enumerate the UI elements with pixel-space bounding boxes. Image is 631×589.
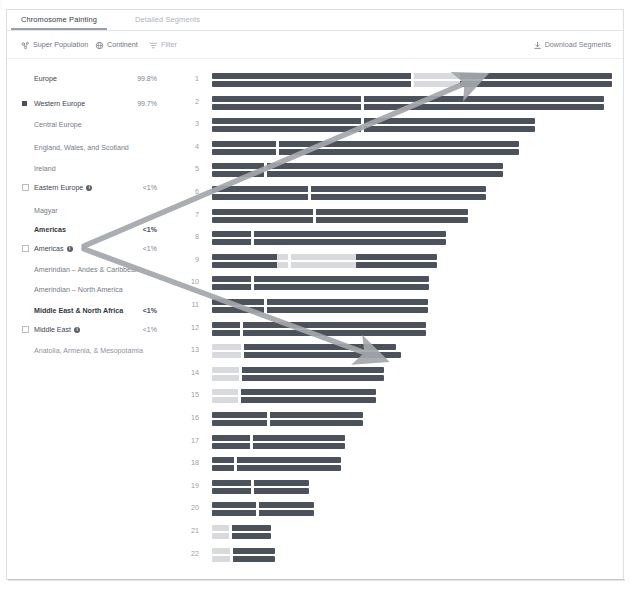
ancestry-segment[interactable] (212, 126, 535, 132)
tab-chromosome-painting[interactable]: Chromosome Painting (11, 10, 107, 30)
legend-bullet[interactable] (22, 326, 29, 333)
legend-row[interactable]: Magyar (7, 204, 179, 217)
legend-row[interactable]: Western Europe99.7% (7, 97, 179, 110)
chromosome-haplotype-bar[interactable] (212, 149, 519, 155)
ancestry-segment[interactable] (212, 412, 363, 418)
ancestry-segment[interactable] (212, 194, 486, 200)
ancestry-segment[interactable] (212, 389, 240, 395)
chromosome-haplotype-bar[interactable] (212, 330, 426, 336)
legend-row[interactable]: Anatolia, Armenia, & Mesopotamia (7, 344, 179, 357)
ancestry-segment[interactable] (212, 104, 604, 110)
ancestry-segment[interactable] (212, 344, 242, 350)
legend-row[interactable]: Amerindian – Andes & Caribbean (7, 263, 179, 276)
chromosome-haplotype-bar[interactable] (212, 186, 486, 192)
ancestry-segment[interactable] (412, 73, 460, 79)
tab-detailed-segments[interactable]: Detailed Segments (125, 10, 210, 30)
continent-button[interactable]: Continent (95, 38, 138, 52)
ancestry-segment[interactable] (212, 307, 428, 313)
ancestry-segment[interactable] (212, 556, 231, 562)
chromosome-haplotype-bar[interactable] (212, 239, 446, 245)
info-icon[interactable]: i (74, 327, 80, 333)
ancestry-segment[interactable] (240, 367, 384, 373)
ancestry-segment[interactable] (460, 73, 612, 79)
chromosome-haplotype-bar[interactable] (212, 73, 612, 79)
chromosome-fragment[interactable] (212, 510, 223, 516)
chromosome-haplotype-bar[interactable] (212, 126, 535, 132)
chromosome-haplotype-bar[interactable] (212, 118, 535, 124)
chromosome-haplotype-bar[interactable] (212, 533, 271, 539)
legend-row[interactable]: Ireland (7, 162, 179, 175)
chromosome-haplotype-bar[interactable] (212, 525, 271, 531)
ancestry-segment[interactable] (212, 163, 503, 169)
ancestry-segment[interactable] (212, 330, 426, 336)
ancestry-segment[interactable] (212, 525, 230, 531)
ancestry-segment[interactable] (212, 231, 446, 237)
chromosome-haplotype-bar[interactable] (212, 231, 446, 237)
ancestry-segment[interactable] (227, 510, 249, 516)
chromosome-haplotype-bar[interactable] (212, 457, 341, 463)
legend-row[interactable]: Middle East & North Africa<1% (7, 304, 179, 317)
chromosome-haplotype-bar[interactable] (212, 307, 428, 313)
ancestry-segment[interactable] (240, 397, 376, 403)
ancestry-segment[interactable] (212, 217, 468, 223)
chromosome-haplotype-bar[interactable] (212, 254, 437, 260)
ancestry-segment[interactable] (212, 239, 446, 245)
ancestry-segment[interactable] (212, 352, 242, 358)
chromosome-haplotype-bar[interactable] (212, 367, 384, 373)
chromosome-haplotype-bar[interactable] (212, 465, 341, 471)
legend-row[interactable]: Central Europe (7, 118, 179, 131)
ancestry-segment[interactable] (212, 488, 309, 494)
ancestry-segment[interactable] (212, 254, 277, 260)
chromosome-haplotype-bar[interactable] (212, 299, 428, 305)
chromosome-haplotype-bar[interactable] (212, 375, 384, 381)
ancestry-segment[interactable] (212, 375, 240, 381)
chromosome-haplotype-bar[interactable] (212, 435, 345, 441)
ancestry-segment[interactable] (240, 375, 384, 381)
ancestry-segment[interactable] (212, 171, 503, 177)
ancestry-segment[interactable] (395, 352, 401, 358)
ancestry-segment[interactable] (212, 502, 314, 508)
chromosome-haplotype-bar[interactable] (212, 284, 429, 290)
ancestry-segment[interactable] (212, 443, 345, 449)
ancestry-segment[interactable] (356, 254, 437, 260)
chromosome-haplotype-bar[interactable] (212, 209, 468, 215)
ancestry-segment[interactable] (212, 435, 345, 441)
legend-row[interactable]: Americasi<1% (7, 242, 179, 255)
ancestry-segment[interactable] (212, 81, 412, 87)
ancestry-segment[interactable] (212, 262, 277, 268)
ancestry-segment[interactable] (242, 344, 396, 350)
ancestry-segment[interactable] (240, 389, 376, 395)
chromosome-haplotype-bar[interactable] (212, 194, 486, 200)
chromosome-fragment[interactable] (387, 352, 392, 358)
ancestry-segment[interactable] (212, 322, 426, 328)
chromosome-haplotype-bar[interactable] (212, 104, 604, 110)
ancestry-segment[interactable] (230, 533, 271, 539)
ancestry-segment[interactable] (212, 141, 519, 147)
ancestry-segment[interactable] (242, 352, 396, 358)
ancestry-segment[interactable] (212, 548, 231, 554)
chromosome-fragment[interactable] (227, 510, 249, 516)
chromosome-haplotype-bar[interactable] (212, 502, 314, 508)
chromosome-haplotype-bar[interactable] (212, 262, 437, 268)
chromosome-haplotype-bar[interactable] (212, 488, 309, 494)
ancestry-segment[interactable] (212, 276, 429, 282)
chromosome-haplotype-bar[interactable] (212, 556, 275, 562)
chromosome-haplotype-bar[interactable] (212, 322, 426, 328)
ancestry-segment[interactable] (212, 73, 412, 79)
ancestry-segment[interactable] (212, 299, 428, 305)
chromosome-haplotype-bar[interactable] (212, 548, 275, 554)
ancestry-segment[interactable] (212, 457, 341, 463)
chromosome-haplotype-bar[interactable] (212, 276, 429, 282)
legend-bullet-selected[interactable] (22, 101, 27, 106)
chromosome-haplotype-bar[interactable] (212, 217, 468, 223)
ancestry-segment[interactable] (212, 367, 240, 373)
legend-bullet[interactable] (22, 245, 29, 252)
legend-row[interactable]: Europe99.8% (7, 72, 179, 85)
download-segments-button[interactable]: Download Segments (533, 38, 611, 52)
ancestry-segment[interactable] (412, 81, 460, 87)
legend-row[interactable]: Middle Easti<1% (7, 323, 179, 336)
super-population-button[interactable]: Super Population (21, 38, 88, 52)
ancestry-segment[interactable] (212, 284, 429, 290)
ancestry-segment[interactable] (212, 149, 519, 155)
chromosome-haplotype-bar[interactable] (212, 344, 396, 350)
